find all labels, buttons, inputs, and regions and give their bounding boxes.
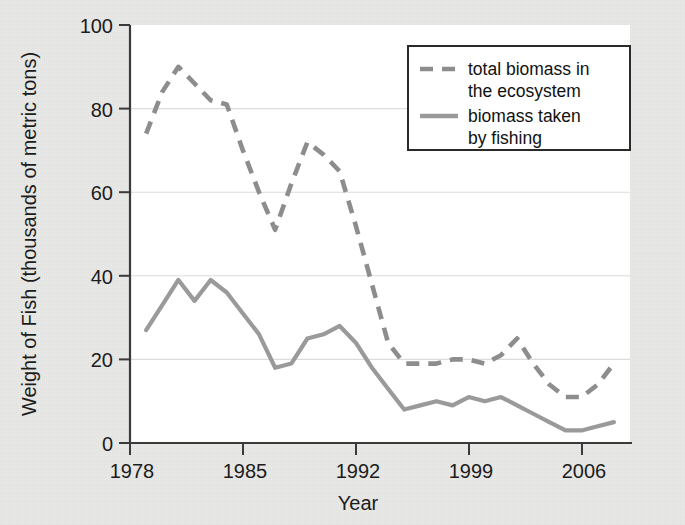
line-chart: 100 80 60 40 20 0 1978 1985 1992 1999 20…: [0, 0, 685, 525]
y-tick-label-100: 100: [80, 15, 113, 37]
y-tick-label-40: 40: [91, 266, 113, 288]
y-tick-label-80: 80: [91, 99, 113, 121]
x-axis-ticks: [130, 443, 582, 455]
x-tick-label-1978: 1978: [110, 460, 155, 482]
x-axis-title: Year: [338, 492, 379, 514]
legend-label-total-biomass-line2: the ecosystem: [468, 81, 581, 101]
x-tick-label-1999: 1999: [449, 460, 494, 482]
chart-figure: 100 80 60 40 20 0 1978 1985 1992 1999 20…: [0, 0, 685, 525]
legend-label-biomass-fishing-line1: biomass taken: [468, 106, 581, 126]
y-axis-title: Weight of Fish (thousands of metric tons…: [18, 52, 40, 416]
y-tick-label-60: 60: [91, 182, 113, 204]
legend-label-biomass-fishing-line2: by fishing: [468, 128, 542, 148]
x-tick-label-2006: 2006: [562, 460, 607, 482]
y-tick-label-20: 20: [91, 349, 113, 371]
x-tick-label-1985: 1985: [223, 460, 268, 482]
legend: total biomass in the ecosystem biomass t…: [408, 46, 630, 150]
y-axis-ticks: [119, 25, 130, 443]
legend-label-total-biomass-line1: total biomass in: [468, 59, 590, 79]
y-tick-label-0: 0: [102, 433, 113, 455]
x-tick-label-1992: 1992: [336, 460, 381, 482]
